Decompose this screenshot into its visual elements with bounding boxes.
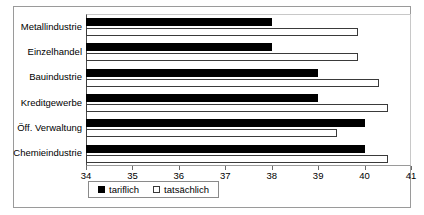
x-axis-tick-label: 39 [313, 170, 324, 182]
bar-group [86, 115, 411, 140]
x-axis-tick-label: 38 [266, 170, 277, 182]
x-axis-tick-label: 34 [81, 170, 92, 182]
bar-group [86, 141, 411, 166]
legend-entry: tariflich [98, 184, 139, 195]
x-axis-tick-label: 40 [359, 170, 370, 182]
bar-group [86, 65, 411, 90]
category-label: Kreditgewerbe [13, 97, 82, 108]
bar-tariflich [86, 94, 318, 102]
category-label: Öff. Verwaltung [13, 122, 82, 133]
bar-tatschlich [86, 129, 337, 137]
bar-tatschlich [86, 28, 358, 36]
bar-group [86, 39, 411, 64]
bar-group [86, 14, 411, 39]
legend-swatch-icon [153, 186, 160, 193]
bar-tatschlich [86, 79, 379, 87]
bar-tatschlich [86, 155, 388, 163]
category-label: Einzelhandel [13, 46, 82, 57]
legend-label: tatsächlich [164, 184, 209, 195]
legend-label: tariflich [109, 184, 139, 195]
bar-group [86, 90, 411, 115]
category-axis-labels: MetallindustrieEinzelhandelBauindustrieK… [13, 14, 82, 166]
bar-tariflich [86, 18, 272, 26]
bar-tariflich [86, 119, 365, 127]
x-axis-tick-label: 36 [174, 170, 185, 182]
legend-entry: tatsächlich [153, 184, 209, 195]
bar-tariflich [86, 145, 365, 153]
category-label: Metallindustrie [13, 21, 82, 32]
x-axis-tick-label: 37 [220, 170, 231, 182]
category-label: Chemieindustrie [13, 147, 82, 158]
bar-rows [86, 14, 411, 166]
bar-tariflich [86, 43, 272, 51]
bar-chart: MetallindustrieEinzelhandelBauindustrieK… [0, 0, 424, 215]
bar-tariflich [86, 69, 318, 77]
category-label: Bauindustrie [13, 71, 82, 82]
x-axis-tick-label: 41 [406, 170, 417, 182]
legend-swatch-icon [98, 186, 105, 193]
bar-tatschlich [86, 104, 388, 112]
x-axis-tick-label: 35 [127, 170, 138, 182]
bar-tatschlich [86, 53, 358, 61]
chart-legend: tariflichtatsächlich [88, 181, 219, 198]
